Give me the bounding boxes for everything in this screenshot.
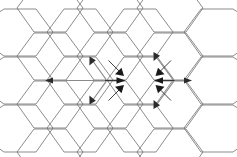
inward-from-lower-left-head [115, 85, 124, 93]
outward-to-lower-right-shaft [158, 81, 174, 103]
inward-from-upper-left-shaft [109, 61, 120, 72]
hex-cell [47, 9, 113, 56]
hex-cell [77, 33, 143, 80]
hex-row-middle-offset [17, 33, 203, 80]
hex-row-bottom-partial [17, 129, 203, 157]
hex-cell [17, 81, 83, 128]
hex-row-bottom-offset [17, 81, 203, 128]
inward-from-right-head [154, 77, 163, 84]
inward-from-upper-left-head [115, 68, 124, 76]
outward-to-left [45, 78, 106, 84]
hex-cell [0, 9, 53, 56]
inward-from-left-head [117, 77, 126, 84]
outward-to-upper-left-shaft [94, 62, 107, 80]
hex-cell [137, 0, 203, 32]
hex-cell [184, 105, 237, 152]
inward-from-upper-right-head [156, 68, 165, 76]
inward-from-upper-left [109, 61, 125, 77]
hex-cell [137, 33, 203, 80]
hex-cell [107, 9, 173, 56]
outward-to-right-head [184, 78, 192, 84]
inward-from-lower-right [156, 85, 172, 101]
outward-to-lower-left-shaft [94, 81, 107, 99]
inward-from-lower-left [109, 85, 125, 101]
hex-grid-figure: Hexagonal grid with central cell flow ar… [0, 0, 237, 157]
hex-cell [77, 81, 143, 128]
hex-row-top [0, 9, 237, 56]
hex-cell [184, 9, 237, 56]
outward-to-upper-right-shaft [158, 58, 174, 80]
hex-row-top-offset [17, 0, 203, 32]
hex-cell [137, 129, 203, 157]
hexagon-grid-diagram [0, 0, 237, 157]
hex-cell [17, 129, 83, 157]
hex-cell [137, 81, 203, 128]
hex-cell [77, 129, 143, 157]
hex-cell [107, 105, 173, 152]
hex-cell [17, 0, 83, 32]
inward-from-lower-right-head [156, 85, 165, 93]
hex-cell [47, 105, 113, 152]
hex-cell [77, 0, 143, 32]
hex-cell [17, 33, 83, 80]
hex-row-bottom [0, 105, 237, 152]
hex-cell [0, 105, 53, 152]
outward-to-right [174, 78, 192, 84]
